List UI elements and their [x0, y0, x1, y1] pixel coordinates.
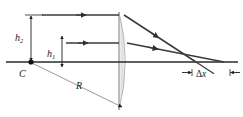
- label-h1: h1: [47, 48, 55, 60]
- dimension-h2: h2: [15, 15, 43, 61]
- refracted-ray-inner: [127, 43, 224, 62]
- label-h1-sub: 1: [52, 53, 55, 60]
- label-h2: h2: [15, 32, 24, 44]
- refracted-ray-outer-arrow: [150, 32, 159, 38]
- label-radius: R: [75, 80, 82, 91]
- label-delta-x-base: x: [201, 69, 207, 79]
- lens-body: [119, 12, 125, 110]
- plano-convex-lens: [119, 12, 125, 110]
- refracted-rays: [124, 15, 224, 74]
- dimension-delta-x: Δx: [182, 69, 240, 79]
- spherical-aberration-figure: h2 h1 C R Δx: [0, 0, 243, 117]
- label-delta-x: Δx: [196, 69, 207, 79]
- label-center-of-curvature: C: [19, 68, 26, 79]
- optics-diagram-canvas: h2 h1 C R Δx: [0, 0, 243, 117]
- incident-rays: [42, 15, 119, 43]
- label-h2-sub: 2: [20, 37, 24, 44]
